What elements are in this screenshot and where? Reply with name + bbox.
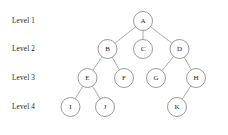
level-label-1: Level 1 bbox=[12, 17, 35, 25]
nodes-group: ABCDEFGHIJK bbox=[61, 12, 206, 117]
tree-node-label-G: G bbox=[153, 74, 158, 82]
tree-edge-H-K bbox=[182, 86, 191, 99]
tree-node-label-C: C bbox=[141, 45, 146, 53]
tree-node-J[interactable]: J bbox=[96, 98, 115, 117]
tree-node-label-H: H bbox=[193, 74, 198, 82]
tree-edge-B-F bbox=[112, 57, 119, 69]
tree-node-C[interactable]: C bbox=[134, 40, 153, 59]
edges-group bbox=[75, 27, 191, 99]
tree-diagram-canvas: Level 1Level 2Level 3Level 4 ABCDEFGHIJK bbox=[0, 0, 228, 135]
tree-node-B[interactable]: B bbox=[98, 40, 117, 59]
tree-edge-D-H bbox=[184, 57, 191, 69]
tree-edge-B-E bbox=[93, 57, 102, 70]
tree-node-G[interactable]: G bbox=[147, 69, 166, 88]
tree-node-label-E: E bbox=[85, 74, 89, 82]
tree-edge-A-D bbox=[151, 27, 172, 43]
level-label-3: Level 3 bbox=[12, 74, 35, 82]
tree-node-label-A: A bbox=[140, 17, 145, 25]
tree-node-I[interactable]: I bbox=[61, 98, 80, 117]
tree-edge-E-I bbox=[75, 86, 82, 99]
tree-node-F[interactable]: F bbox=[115, 69, 134, 88]
tree-edge-D-G bbox=[162, 56, 174, 70]
tree-node-D[interactable]: D bbox=[170, 40, 189, 59]
tree-node-E[interactable]: E bbox=[78, 69, 97, 88]
level-label-2: Level 2 bbox=[12, 45, 35, 53]
tree-node-label-D: D bbox=[177, 45, 182, 53]
tree-node-label-J: J bbox=[104, 103, 107, 111]
tree-node-K[interactable]: K bbox=[168, 98, 187, 117]
tree-diagram-svg: Level 1Level 2Level 3Level 4 ABCDEFGHIJK bbox=[0, 0, 228, 135]
tree-node-A[interactable]: A bbox=[134, 12, 153, 31]
tree-node-label-K: K bbox=[174, 103, 179, 111]
tree-edge-A-B bbox=[115, 27, 136, 43]
tree-node-label-F: F bbox=[122, 74, 126, 82]
tree-edge-E-J bbox=[92, 86, 100, 99]
tree-node-label-B: B bbox=[105, 45, 110, 53]
level-label-4: Level 4 bbox=[12, 103, 35, 111]
level-labels-group: Level 1Level 2Level 3Level 4 bbox=[12, 17, 35, 111]
tree-node-H[interactable]: H bbox=[187, 69, 206, 88]
